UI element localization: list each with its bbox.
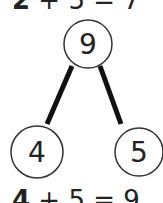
bond-line-right — [100, 66, 121, 124]
number-bond-diagram: 9 4 5 — [0, 0, 163, 203]
equation-bottom-rest: + 5 = 9 — [30, 185, 140, 203]
part-right-value: 5 — [130, 136, 148, 169]
equation-bottom: 4 + 5 = 9 — [12, 187, 140, 203]
whole-value: 9 — [79, 28, 97, 61]
equation-bottom-first: 4 — [12, 185, 30, 203]
bond-line-left — [47, 66, 72, 124]
part-left-value: 4 — [28, 136, 46, 169]
